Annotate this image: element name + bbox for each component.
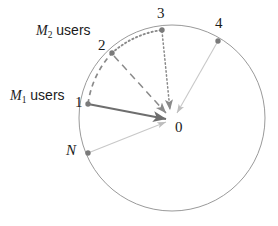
node-label-2: 2 — [98, 38, 106, 53]
arc-1-to-2 — [88, 53, 112, 104]
label-m2-base: M — [36, 23, 48, 38]
edge-N-to-0 — [88, 122, 166, 153]
circle-diagram-figure: M2 users M1 users 0 1 2 3 4 N — [0, 0, 278, 226]
node-marker-1 — [85, 101, 90, 106]
node-label-N: N — [66, 143, 76, 158]
node-label-3: 3 — [157, 6, 165, 21]
node-marker-2 — [109, 50, 114, 55]
label-m1-users: M1 users — [10, 88, 65, 105]
node-marker-N — [85, 150, 90, 155]
label-m1-base: M — [10, 88, 22, 103]
edge-4-to-0 — [177, 41, 218, 113]
label-m2-suffix: users — [52, 22, 90, 38]
edge-3-to-0 — [162, 31, 170, 110]
edge-1-to-0 — [88, 104, 166, 119]
node-label-4: 4 — [215, 16, 223, 31]
node-marker-4 — [215, 38, 220, 43]
label-m1-suffix: users — [26, 87, 64, 103]
label-m2-users: M2 users — [36, 23, 91, 40]
node-marker-3 — [159, 27, 164, 32]
node-label-N-text: N — [66, 142, 76, 158]
node-label-0: 0 — [175, 120, 183, 135]
edge-2-to-0 — [114, 56, 166, 113]
main-circle — [79, 25, 265, 211]
node-label-1: 1 — [75, 95, 83, 110]
